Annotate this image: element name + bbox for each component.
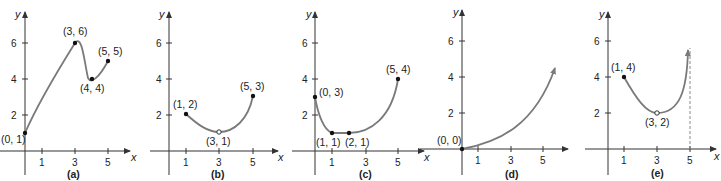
panel-d: 1 3 5 2 4 6 y (0, 0) (d): [420, 6, 568, 180]
y-tick-2: 2: [11, 110, 17, 121]
x-tick-1: 1: [621, 155, 627, 166]
y-axis-label: y: [305, 8, 313, 20]
x-axis-label: x: [130, 151, 137, 163]
x-tick-3: 3: [508, 155, 514, 166]
x-tick-3: 3: [363, 157, 369, 168]
panel-label: (c): [359, 168, 372, 180]
y-tick-6: 6: [156, 38, 162, 49]
panel-a: 1 3 5 2 4 6 x y (0, 1) (3, 6) (4, 4) (5,…: [0, 8, 137, 180]
point-label: (5, 5): [98, 45, 123, 57]
y-tick-4: 4: [11, 74, 17, 85]
panel-label: (a): [67, 168, 80, 180]
panel-c: 1 3 5 2 4 6 x y (0, 3) (1, 1) (2, 1) (5,…: [292, 8, 430, 180]
panel-e: 1 3 5 2 4 6 x y (1, 4) (3, 2) (e): [585, 8, 720, 179]
panel-b: 1 3 5 2 4 6 x y (1, 2) (3, 1) (5, 3) (b): [150, 8, 284, 180]
x-axis-label: x: [277, 151, 284, 163]
point-label: (2, 1): [345, 136, 370, 148]
x-tick-3: 3: [654, 155, 660, 166]
y-tick-4: 4: [156, 74, 162, 85]
x-tick-5: 5: [395, 157, 401, 168]
x-tick-5: 5: [250, 157, 256, 168]
x-tick-5: 5: [540, 155, 546, 166]
y-tick-2: 2: [156, 110, 162, 121]
point-label: (4, 4): [80, 82, 105, 94]
x-tick-5: 5: [105, 157, 111, 168]
function-graphs-figure: 1 3 5 2 4 6 x y (0, 1) (3, 6) (4, 4) (5,…: [0, 0, 721, 181]
y-axis-label: y: [452, 6, 460, 18]
y-tick-4: 4: [448, 72, 454, 83]
x-tick-3: 3: [216, 157, 222, 168]
panel-label: (d): [505, 168, 518, 180]
y-axis-label: y: [14, 8, 22, 20]
x-tick-3: 3: [72, 157, 78, 168]
point-label: (0, 0): [437, 134, 462, 146]
y-tick-6: 6: [594, 36, 600, 47]
x-axis-label: x: [713, 150, 720, 162]
y-tick-2: 2: [448, 108, 454, 119]
point-label: (0, 3): [319, 86, 344, 98]
panel-label: (e): [651, 167, 664, 179]
y-tick-2: 2: [302, 110, 308, 121]
point-label: (5, 3): [240, 80, 265, 92]
y-tick-6: 6: [448, 36, 454, 47]
point-label: (1, 2): [173, 98, 198, 110]
point-label: (1, 1): [316, 136, 341, 148]
y-tick-4: 4: [302, 74, 308, 85]
y-tick-2: 2: [594, 108, 600, 119]
panel-label: (b): [211, 168, 224, 180]
y-axis-label: y: [598, 8, 606, 20]
curve: [462, 68, 555, 149]
x-tick-5: 5: [687, 155, 693, 166]
x-tick-1: 1: [183, 157, 189, 168]
point-label: (3, 2): [645, 116, 670, 128]
point-label: (1, 4): [611, 61, 636, 73]
y-tick-6: 6: [11, 38, 17, 49]
x-axis-label: x: [423, 151, 430, 163]
point-label: (3, 6): [63, 25, 88, 37]
x-tick-1: 1: [475, 155, 481, 166]
x-tick-1: 1: [329, 157, 335, 168]
point-label: (5, 4): [386, 63, 411, 75]
y-tick-6: 6: [302, 38, 308, 49]
point-label: (0, 1): [1, 133, 26, 145]
point-label: (3, 1): [206, 135, 231, 147]
x-tick-1: 1: [39, 157, 45, 168]
y-tick-4: 4: [594, 72, 600, 83]
curve: [624, 50, 688, 113]
y-axis-label: y: [158, 8, 166, 20]
